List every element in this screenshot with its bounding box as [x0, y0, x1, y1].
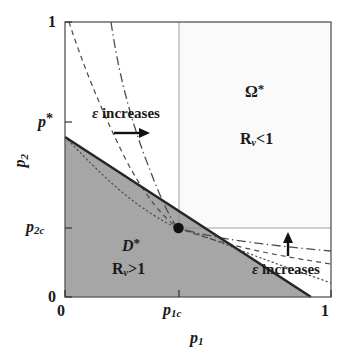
x-axis-title-base: p [190, 329, 198, 346]
x-axis-title-sub: 1 [198, 335, 204, 347]
y-axis-title: p2 [12, 146, 29, 176]
x-tick-label-zero: 0 [57, 303, 65, 319]
figure-canvas: 1 p* p2c 0 0 p1c 1 p1 p2 Ω* Rv<1 D* Rv>1… [0, 0, 350, 360]
up-arrow-icon [283, 232, 293, 256]
y-axis-title-sub: 2 [18, 154, 30, 160]
d-condition-base: R [112, 260, 124, 277]
x-axis-title: p1 [190, 330, 204, 347]
eps-increases-lower-label: ε increases [252, 262, 320, 277]
omega-star-asterisk: * [258, 81, 265, 96]
d-star-symbol: D [122, 237, 134, 254]
x-tick-label-one: 1 [321, 303, 329, 319]
eps-upper-text: increases [98, 105, 160, 121]
eps-lower-text: increases [258, 261, 320, 277]
right-arrow-icon [114, 128, 150, 138]
d-condition-rest: >1 [128, 260, 145, 277]
omega-star-symbol: Ω [245, 83, 258, 100]
x-tick-label-p1c: p1c [163, 302, 181, 319]
d-star-asterisk: * [134, 235, 141, 250]
omega-star-label: Ω* [245, 82, 264, 100]
y-tick-p2c-base: p [26, 218, 34, 235]
y-tick-label-zero: 0 [48, 289, 56, 305]
y-tick-label-p2c: p2c [26, 219, 44, 236]
y-tick-pstar-base: p [38, 113, 46, 130]
x-tick-p1c-base: p [163, 301, 171, 318]
omega-condition-rest: <1 [256, 130, 273, 147]
omega-star-region-fill [179, 22, 331, 228]
y-tick-pstar-star: * [46, 111, 53, 126]
x-tick-p1c-sub: 1c [171, 307, 181, 319]
y-tick-p2c-sub: 2c [34, 224, 44, 236]
omega-condition-base: R [240, 130, 252, 147]
y-tick-label-one: 1 [48, 14, 56, 30]
d-star-condition: Rv>1 [112, 261, 145, 278]
critical-point-marker [173, 223, 183, 233]
eps-increases-upper-label: ε increases [92, 106, 160, 121]
y-axis-title-base: p [11, 159, 28, 167]
d-star-label: D* [122, 236, 140, 254]
y-tick-label-pstar: p* [38, 112, 53, 130]
omega-star-condition: Rv<1 [240, 131, 273, 148]
